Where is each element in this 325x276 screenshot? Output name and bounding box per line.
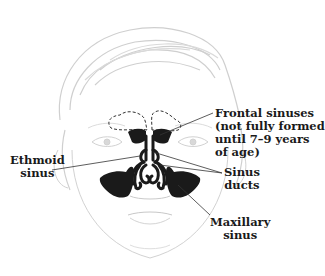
- frontal-sinus-label: Frontal sinuses (not fully formed until …: [215, 107, 325, 159]
- frontal-leader-line: [160, 113, 213, 135]
- sinus-ducts-label: Sinus ducts: [224, 166, 260, 192]
- maxillary-sinus-label: Maxillary sinus: [210, 216, 270, 242]
- ethmoid-sinus: [132, 136, 167, 189]
- frontal-sinus-outline: [109, 111, 181, 131]
- ethmoid-leader-line: [52, 156, 140, 170]
- leader-lines: [52, 113, 222, 215]
- ethmoid-sinus-label: Ethmoid sinus: [10, 154, 65, 180]
- frontal-sinus-filled: [128, 129, 172, 144]
